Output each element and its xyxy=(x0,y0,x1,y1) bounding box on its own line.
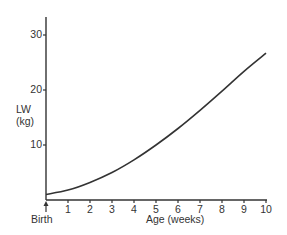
birth-arrow-head-icon xyxy=(44,201,49,206)
live-weight-curve xyxy=(46,53,266,194)
x-tick-label-3: 3 xyxy=(105,203,119,215)
y-axis-label-line2: (kg) xyxy=(16,115,34,127)
x-tick-label-2: 2 xyxy=(83,203,97,215)
x-tick-label-10: 10 xyxy=(259,203,273,215)
y-axis-label-line1: LW xyxy=(16,103,34,115)
y-axis-label: LW (kg) xyxy=(16,103,34,127)
x-tick-label-4: 4 xyxy=(127,203,141,215)
birth-label: Birth xyxy=(31,213,53,225)
y-tick-label-30: 30 xyxy=(18,28,42,40)
x-axis-label: Age (weeks) xyxy=(146,213,204,225)
x-tick-label-8: 8 xyxy=(215,203,229,215)
y-tick-label-20: 20 xyxy=(18,83,42,95)
axes xyxy=(43,17,267,212)
y-tick-label-10: 10 xyxy=(18,138,42,150)
x-tick-label-9: 9 xyxy=(237,203,251,215)
x-tick-label-1: 1 xyxy=(61,203,75,215)
line-chart xyxy=(0,0,287,235)
